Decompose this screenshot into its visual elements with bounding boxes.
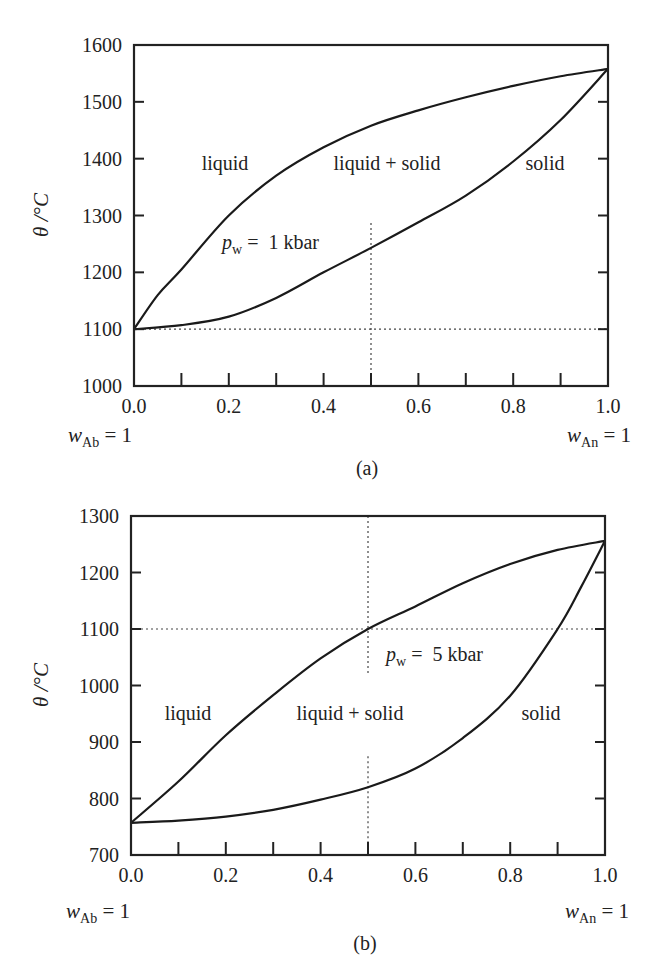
panel-a-y-tick-label: 1500 [82, 91, 122, 113]
panel-a-solidus-curve [134, 69, 608, 329]
panel-a-x-tick-labels: 0.00.20.40.60.81.0 [122, 395, 621, 417]
panel-a-y-tick-label: 1600 [82, 34, 122, 56]
panel-b-caption: (b) [353, 932, 376, 955]
panel-a-caption: (a) [356, 457, 378, 480]
panel-b-chart: 7008009001000110012001300 0.00.20.40.60.… [29, 505, 629, 955]
panel-b-x-left-label: wAb = 1 [66, 899, 130, 926]
panel-b-y-tick-label: 1100 [80, 618, 119, 640]
panel-b-region-liquid-solid: liquid + solid [297, 702, 404, 725]
phase-diagram-figure: 1000110012001300140015001600 0.00.20.40.… [0, 0, 660, 977]
panel-b-pressure-label: pw = 5 kbar [384, 643, 483, 669]
panel-b-liquidus-curve [131, 541, 605, 823]
panel-a-curves [134, 69, 608, 329]
panel-b-curves [131, 541, 605, 823]
panel-a-x-tick-label: 0.8 [501, 395, 526, 417]
panel-a-y-tick-label: 1200 [82, 261, 122, 283]
panel-a-x-tick-label: 1.0 [596, 395, 621, 417]
pressure-value: = 1 kbar [242, 231, 319, 253]
panel-b-guides [131, 516, 605, 855]
panel-b-region-solid: solid [522, 702, 561, 724]
panel-b-x-tick-label: 0.6 [403, 864, 428, 886]
panel-b-x-tick-label: 1.0 [593, 864, 618, 886]
panel-b-y-tick-label: 800 [89, 788, 119, 810]
panel-a-x-right-label: wAn = 1 [567, 423, 631, 450]
panel-a-y-tick-label: 1100 [83, 318, 122, 340]
panel-a-chart: 1000110012001300140015001600 0.00.20.40.… [29, 34, 631, 480]
panel-b-y-tick-labels: 7008009001000110012001300 [79, 505, 119, 866]
panel-b-x-tick-labels: 0.00.20.40.60.81.0 [119, 864, 618, 886]
panel-b-x-tick-label: 0.0 [119, 864, 144, 886]
panel-a-x-left-label: wAb = 1 [68, 423, 132, 450]
panel-b-y-tick-label: 700 [89, 844, 119, 866]
panel-b-y-tick-label: 1200 [79, 562, 119, 584]
panel-b-y-axis-label: θ /°C [29, 662, 53, 707]
panel-b-solidus-curve [131, 541, 605, 823]
panel-a-y-tick-labels: 1000110012001300140015001600 [82, 34, 122, 397]
panel-b-y-tick-label: 1300 [79, 505, 119, 527]
panel-b-x-right-label: wAn = 1 [565, 899, 629, 926]
panel-a-x-tick-label: 0.2 [216, 395, 241, 417]
panel-a-region-solid: solid [526, 152, 565, 174]
panel-b-region-liquid: liquid [165, 702, 212, 725]
panel-a-region-liquid-solid: liquid + solid [334, 152, 441, 175]
panel-b-y-tick-label: 1000 [79, 675, 119, 697]
panel-b-x-tick-label: 0.4 [308, 864, 333, 886]
panel-b-x-tick-label: 0.2 [213, 864, 238, 886]
panel-a-y-axis-label: θ /°C [29, 192, 53, 237]
panel-a-liquidus-curve [134, 69, 608, 329]
panel-a-x-tick-label: 0.4 [311, 395, 336, 417]
pressure-var: p [220, 231, 232, 254]
panel-a-x-tick-label: 0.6 [406, 395, 431, 417]
panel-a-x-tick-label: 0.0 [122, 395, 147, 417]
panel-a-region-liquid: liquid [202, 152, 249, 175]
panel-a-y-tick-label: 1400 [82, 148, 122, 170]
panel-a-pressure-label: pw = 1 kbar [220, 231, 319, 257]
panel-a-y-tick-label: 1000 [82, 375, 122, 397]
panel-b-x-tick-label: 0.8 [498, 864, 523, 886]
panel-b-y-tick-label: 900 [89, 731, 119, 753]
panel-a-y-tick-label: 1300 [82, 205, 122, 227]
